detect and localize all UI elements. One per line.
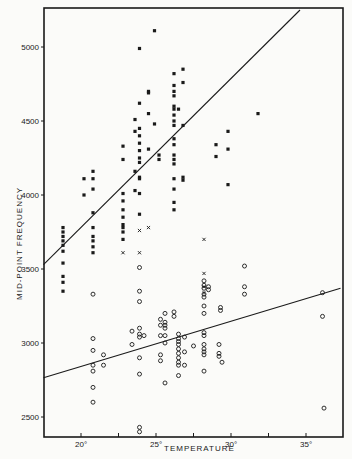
filled-square-point bbox=[121, 192, 124, 195]
open-circle-point bbox=[163, 334, 167, 338]
filled-square-point bbox=[172, 105, 175, 108]
filled-square-point bbox=[157, 153, 160, 156]
x-tick-label: 20° bbox=[75, 440, 87, 449]
open-circle-point bbox=[220, 360, 224, 364]
filled-square-point bbox=[91, 251, 94, 254]
open-circle-point bbox=[138, 326, 142, 330]
open-circle-point bbox=[159, 353, 163, 357]
filled-square-point bbox=[153, 29, 156, 32]
filled-square-point bbox=[172, 137, 175, 140]
y-tick-label: 3000 bbox=[21, 339, 39, 348]
filled-square-point bbox=[172, 158, 175, 161]
open-circle-point bbox=[91, 385, 95, 389]
filled-square-point bbox=[61, 261, 64, 264]
filled-square-point bbox=[157, 158, 160, 161]
open-circle-point bbox=[177, 356, 181, 360]
open-circle-point bbox=[202, 311, 206, 315]
open-circle-point bbox=[91, 337, 95, 341]
filled-square-point bbox=[133, 130, 136, 133]
filled-square-point bbox=[172, 119, 175, 122]
y-tick-label: 5000 bbox=[21, 43, 39, 52]
filled-square-point bbox=[226, 148, 229, 151]
open-circle-point bbox=[217, 342, 221, 346]
filled-square-point bbox=[121, 199, 124, 202]
filled-square-point bbox=[61, 281, 64, 284]
open-circle-point bbox=[183, 363, 187, 367]
filled-square-point bbox=[138, 102, 141, 105]
open-circle-point bbox=[159, 317, 163, 321]
filled-square-point bbox=[121, 223, 124, 226]
filled-square-point bbox=[138, 142, 141, 145]
filled-square-point bbox=[91, 245, 94, 248]
filled-square-point bbox=[138, 192, 141, 195]
filled-square-point bbox=[256, 112, 259, 115]
filled-square-point bbox=[181, 68, 184, 71]
open-circle-point bbox=[102, 353, 106, 357]
filled-square-point bbox=[138, 156, 141, 159]
cross-point bbox=[121, 251, 124, 254]
filled-square-point bbox=[181, 176, 184, 179]
open-circle-point bbox=[183, 350, 187, 354]
filled-square-point bbox=[91, 170, 94, 173]
filled-square-point bbox=[138, 127, 141, 130]
filled-square-point bbox=[133, 118, 136, 121]
filled-square-point bbox=[61, 290, 64, 293]
open-circle-point bbox=[192, 344, 196, 348]
filled-square-point bbox=[91, 187, 94, 190]
open-circle-point bbox=[138, 425, 142, 429]
filled-square-point bbox=[61, 275, 64, 278]
filled-square-point bbox=[181, 179, 184, 182]
filled-square-point bbox=[121, 208, 124, 211]
filled-square-point bbox=[153, 122, 156, 125]
open-circle-point bbox=[130, 329, 134, 333]
open-circle-point bbox=[202, 369, 206, 373]
open-circle-point bbox=[138, 289, 142, 293]
filled-square-point bbox=[91, 211, 94, 214]
filled-square-point bbox=[61, 230, 64, 233]
filled-square-point bbox=[172, 124, 175, 127]
filled-square-point bbox=[226, 130, 229, 133]
filled-square-point bbox=[172, 201, 175, 204]
plot-border bbox=[44, 8, 343, 437]
filled-square-point bbox=[138, 47, 141, 50]
open-circle-point bbox=[321, 314, 325, 318]
open-circle-point bbox=[177, 351, 181, 355]
open-circle-point bbox=[91, 363, 95, 367]
cross-point bbox=[138, 251, 141, 254]
filled-square-point bbox=[91, 235, 94, 238]
open-circle-point bbox=[138, 300, 142, 304]
filled-square-point bbox=[138, 134, 141, 137]
filled-square-point bbox=[147, 148, 150, 151]
cross-point bbox=[202, 272, 205, 275]
open-circle-point bbox=[91, 292, 95, 296]
filled-square-point bbox=[121, 238, 124, 241]
filled-square-point bbox=[121, 226, 124, 229]
filled-square-point bbox=[61, 239, 64, 242]
filled-square-point bbox=[177, 108, 180, 111]
filled-square-point bbox=[133, 170, 136, 173]
open-circle-point bbox=[322, 406, 326, 410]
open-circle-point bbox=[177, 347, 181, 351]
open-circle-point bbox=[243, 264, 247, 268]
open-circle-point bbox=[243, 285, 247, 289]
open-circle-point bbox=[91, 400, 95, 404]
data-points bbox=[61, 29, 326, 434]
x-tick-label: 35° bbox=[300, 440, 312, 449]
open-circle-point bbox=[159, 323, 163, 327]
filled-square-point bbox=[172, 162, 175, 165]
filled-square-point bbox=[172, 94, 175, 97]
x-axis-title: TEMPERATURE bbox=[164, 444, 235, 453]
cross-point bbox=[138, 229, 141, 232]
plot-frame bbox=[44, 8, 343, 437]
filled-square-point bbox=[121, 216, 124, 219]
cross-point bbox=[202, 238, 205, 241]
scatter-chart: 20°25°30°35° 250030003500400045005000 TE… bbox=[0, 0, 352, 459]
lower-regression-line bbox=[44, 288, 341, 378]
open-circle-point bbox=[159, 359, 163, 363]
filled-square-point bbox=[172, 108, 175, 111]
y-axis: 250030003500400045005000 bbox=[21, 43, 44, 422]
open-circle-point bbox=[172, 314, 176, 318]
filled-square-point bbox=[172, 72, 175, 75]
filled-square-point bbox=[181, 81, 184, 84]
filled-square-point bbox=[138, 149, 141, 152]
